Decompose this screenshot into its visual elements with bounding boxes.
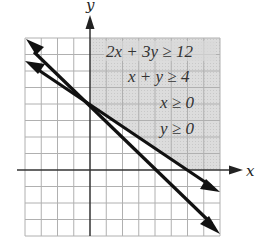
inequality-1: 2x + 3y ≥ 12: [106, 42, 193, 61]
graph: x y 2x + 3y ≥ 12 x + y ≥ 4 x ≥ 0 y ≥ 0: [0, 0, 255, 238]
arrowhead-icon: [200, 216, 220, 234]
inequality-2: x + y ≥ 4: [127, 67, 190, 86]
inequality-3: x ≥ 0: [159, 93, 194, 112]
x-axis-label: x: [246, 162, 255, 180]
inequality-4: y ≥ 0: [158, 119, 194, 138]
y-axis-arrow-icon: [86, 15, 95, 29]
y-axis-label: y: [85, 0, 95, 14]
x-axis-arrow-icon: [229, 166, 243, 175]
